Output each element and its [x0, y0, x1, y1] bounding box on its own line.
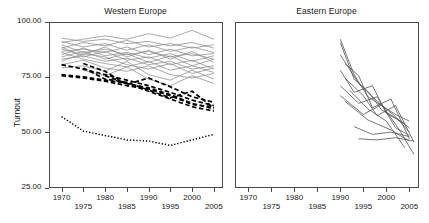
- x-tick-label: 2005: [396, 202, 422, 211]
- series-line: [340, 39, 409, 121]
- x-tick-mark: [363, 188, 364, 192]
- series-line: [354, 127, 409, 137]
- x-tick-label: 1995: [350, 202, 376, 211]
- x-tick-mark: [248, 188, 249, 192]
- x-tick-label: 1975: [258, 202, 284, 211]
- turnout-figure: Turnout 25.0050.0075.00100.00 Western Eu…: [0, 0, 429, 223]
- x-tick-mark: [340, 188, 341, 192]
- x-tick-mark: [317, 188, 318, 192]
- series-layer-eastern-europe: [0, 0, 429, 223]
- series-line: [340, 43, 409, 128]
- x-tick-label: 2000: [373, 193, 399, 202]
- x-tick-mark: [409, 188, 410, 192]
- x-tick-label: 1990: [327, 193, 353, 202]
- x-tick-label: 1970: [235, 193, 261, 202]
- x-tick-label: 1980: [281, 193, 307, 202]
- series-line: [340, 86, 409, 136]
- x-tick-mark: [294, 188, 295, 192]
- x-tick-mark: [271, 188, 272, 192]
- x-tick-label: 1985: [304, 202, 330, 211]
- x-tick-mark: [386, 188, 387, 192]
